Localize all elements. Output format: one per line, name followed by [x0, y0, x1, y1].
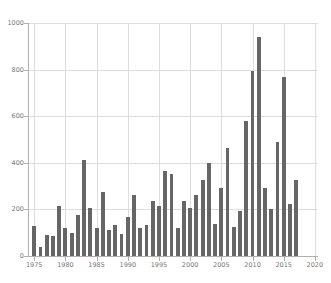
x-tick-label: 1995 — [151, 262, 168, 269]
x-tick-label: 2015 — [275, 262, 292, 269]
bar — [120, 234, 124, 256]
bar — [57, 206, 61, 256]
bar — [213, 224, 217, 256]
x-tick-label: 2005 — [213, 262, 230, 269]
x-tick-mark — [315, 257, 316, 261]
y-tick-mark — [24, 70, 28, 71]
bar — [132, 195, 136, 256]
bar — [32, 226, 36, 256]
y-tick-mark — [24, 163, 28, 164]
bar — [145, 225, 149, 256]
x-tick-mark — [159, 257, 160, 261]
bar — [170, 174, 174, 256]
bar — [282, 77, 286, 256]
bar — [151, 201, 155, 256]
x-gridline — [34, 23, 35, 256]
x-gridline — [97, 23, 98, 256]
x-tick-label: 1985 — [88, 262, 105, 269]
x-tick-label: 1975 — [26, 262, 43, 269]
bar — [95, 228, 99, 256]
y-gridline — [28, 23, 318, 24]
x-tick-mark — [284, 257, 285, 261]
bar — [63, 228, 67, 256]
bar — [157, 206, 161, 256]
y-tick-mark — [24, 23, 28, 24]
bar — [88, 208, 92, 256]
bar — [263, 188, 267, 256]
bar — [257, 37, 261, 256]
bar — [219, 188, 223, 256]
bar — [269, 209, 273, 256]
y-tick-label: 600 — [12, 113, 24, 120]
bar — [207, 163, 211, 256]
y-tick-label: 400 — [12, 160, 24, 167]
y-tick-mark — [24, 256, 28, 257]
bar — [201, 180, 205, 256]
y-tick-label: 1000 — [7, 20, 24, 27]
x-tick-mark — [221, 257, 222, 261]
bar — [76, 215, 80, 256]
bar — [276, 142, 280, 256]
x-tick-label: 1980 — [57, 262, 74, 269]
bar — [188, 208, 192, 256]
x-tick-label: 2000 — [182, 262, 199, 269]
x-gridline — [65, 23, 66, 256]
bar — [251, 71, 255, 256]
bar — [194, 195, 198, 256]
y-gridline — [28, 163, 318, 164]
bar — [138, 228, 142, 256]
bar — [294, 180, 298, 256]
x-tick-mark — [253, 257, 254, 261]
bar — [107, 230, 111, 256]
bar — [113, 225, 117, 256]
bar — [182, 201, 186, 256]
bar — [126, 217, 130, 256]
bar — [232, 227, 236, 256]
bar — [163, 171, 167, 257]
x-tick-label: 1990 — [120, 262, 137, 269]
x-tick-mark — [128, 257, 129, 261]
bar — [288, 204, 292, 256]
bar — [82, 160, 86, 256]
bar — [238, 211, 242, 256]
y-tick-label: 800 — [12, 67, 24, 74]
x-gridline — [315, 23, 316, 256]
y-gridline — [28, 70, 318, 71]
y-tick-label: 200 — [12, 206, 24, 213]
y-tick-mark — [24, 209, 28, 210]
bar — [70, 233, 74, 256]
x-tick-mark — [190, 257, 191, 261]
y-gridline — [28, 116, 318, 117]
x-tick-mark — [34, 257, 35, 261]
bar — [176, 228, 180, 256]
bar — [45, 235, 49, 256]
x-tick-mark — [65, 257, 66, 261]
bar — [244, 121, 248, 256]
plot-area — [28, 23, 318, 256]
bar — [226, 148, 230, 256]
x-tick-label: 2010 — [244, 262, 261, 269]
x-tick-mark — [97, 257, 98, 261]
y-tick-mark — [24, 116, 28, 117]
x-axis-spine — [28, 256, 318, 257]
bar-chart: 0200400600800100019751980198519901995200… — [0, 0, 331, 283]
y-axis-spine — [28, 23, 29, 256]
x-tick-label: 2020 — [307, 262, 324, 269]
bar — [39, 247, 43, 256]
bar — [101, 192, 105, 256]
bar — [51, 236, 55, 256]
